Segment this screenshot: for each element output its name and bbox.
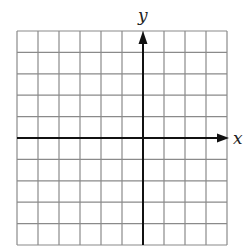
coordinate-plane: x y bbox=[0, 0, 250, 251]
y-axis-label: y bbox=[137, 5, 148, 25]
axes bbox=[17, 31, 229, 245]
y-axis-arrowhead-icon bbox=[139, 31, 148, 44]
x-axis-label: x bbox=[233, 128, 243, 148]
